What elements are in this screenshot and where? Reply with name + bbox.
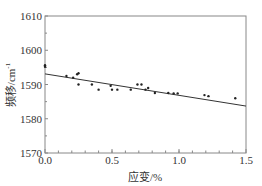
data-points xyxy=(44,64,237,99)
y-axis: 15701580159016001610 xyxy=(20,10,48,159)
data-point xyxy=(144,88,146,90)
data-point xyxy=(65,75,67,77)
data-point xyxy=(147,87,149,89)
data-point xyxy=(72,76,74,78)
data-point xyxy=(111,88,113,90)
data-point xyxy=(116,88,118,90)
data-point xyxy=(167,92,169,94)
data-point xyxy=(176,92,178,94)
data-point xyxy=(44,65,46,67)
chart: 15701580159016001610 0.00.51.01.5 应变/% 频… xyxy=(0,0,262,186)
data-point xyxy=(203,94,205,96)
data-point xyxy=(140,83,142,85)
data-point xyxy=(77,83,79,85)
y-axis-label: 频移/cm-1 xyxy=(4,62,17,107)
data-point xyxy=(136,83,138,85)
data-point xyxy=(77,72,79,74)
data-point xyxy=(234,97,236,99)
data-point xyxy=(172,92,174,94)
y-tick-label: 1580 xyxy=(20,113,43,125)
x-axis: 0.00.51.01.5 xyxy=(38,149,253,166)
x-tick-label: 0.5 xyxy=(105,154,119,166)
data-point xyxy=(91,83,93,85)
x-tick-label: 1.5 xyxy=(239,154,253,166)
y-tick-label: 1600 xyxy=(20,44,43,56)
y-tick-label: 1590 xyxy=(20,79,43,91)
data-point xyxy=(97,88,99,90)
data-point xyxy=(109,85,111,87)
x-axis-label: 应变/% xyxy=(128,170,162,183)
x-tick-label: 1.0 xyxy=(172,154,186,166)
data-point xyxy=(154,92,156,94)
svg-text:频移/cm-1: 频移/cm-1 xyxy=(4,62,17,107)
plot-frame xyxy=(45,16,246,153)
data-point xyxy=(130,88,132,90)
x-tick-label: 0.0 xyxy=(38,154,52,166)
y-tick-label: 1610 xyxy=(20,10,43,22)
data-point xyxy=(207,95,209,97)
